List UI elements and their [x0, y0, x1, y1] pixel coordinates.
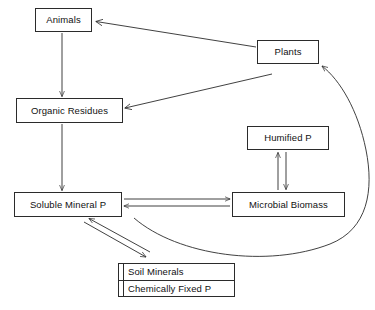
- node-plants[interactable]: Plants: [257, 40, 319, 64]
- node-soluble-mineral-p-label: Soluble Mineral P: [30, 200, 106, 210]
- node-soil-minerals-inner-rule: [123, 264, 124, 296]
- node-animals[interactable]: Animals: [35, 8, 92, 32]
- node-plants-label: Plants: [274, 47, 301, 57]
- node-soluble-mineral-p[interactable]: Soluble Mineral P: [14, 192, 122, 217]
- node-organic-residues-label: Organic Residues: [31, 106, 108, 116]
- node-organic-residues[interactable]: Organic Residues: [16, 98, 123, 123]
- node-animals-label: Animals: [46, 15, 81, 25]
- node-soil-minerals[interactable]: Soil Minerals Chemically Fixed P: [118, 263, 235, 297]
- edge-plants-to-organic-residues: [125, 74, 272, 108]
- node-soil-minerals-line2: Chemically Fixed P: [119, 280, 234, 296]
- node-soil-minerals-line1: Soil Minerals: [119, 264, 234, 280]
- node-humified-p-label: Humified P: [264, 133, 311, 143]
- edge-soluble-mineral-p-to-soil-minerals: [84, 222, 146, 257]
- phosphorus-cycle-diagram: Animals Plants Organic Residues Humified…: [0, 0, 375, 310]
- edge-plants-to-animals: [96, 22, 256, 48]
- node-humified-p[interactable]: Humified P: [247, 126, 329, 150]
- node-microbial-biomass[interactable]: Microbial Biomass: [232, 192, 345, 217]
- node-microbial-biomass-label: Microbial Biomass: [249, 200, 328, 210]
- edge-soluble-mineral-p-to-plants: [134, 66, 369, 256]
